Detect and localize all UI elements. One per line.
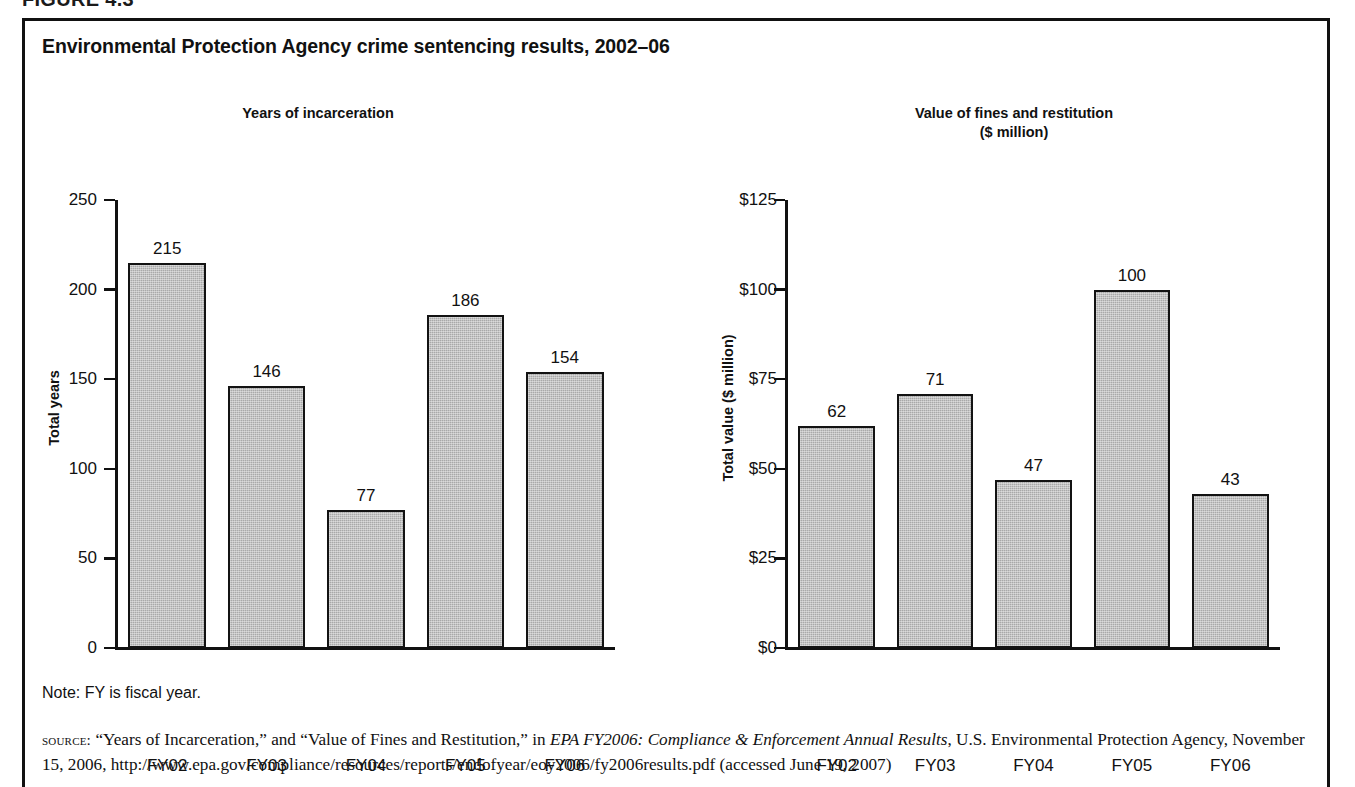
y-axis-tick-label-left: 100 (27, 459, 97, 479)
y-axis-tick-label-left: 200 (27, 280, 97, 300)
y-axis-tick-label-left: 0 (27, 638, 97, 658)
source-prefix: source: (42, 731, 91, 748)
bar-value-label: 186 (416, 291, 515, 311)
figure-root: FIGURE 4.3 Environmental Protection Agen… (0, 0, 1355, 787)
source-text-before: “Years of Incarceration,” and “Value of … (91, 730, 550, 749)
chart-panel-years-of-incarceration: Years of incarceration Total years 05010… (30, 104, 650, 684)
y-axis-tick-left (104, 288, 115, 291)
plot-area-left: Total years 050100150200250 215FY02146FY… (30, 104, 650, 684)
bar-slot: 71FY03 (886, 200, 984, 648)
bar-slot: 43FY06 (1181, 200, 1279, 648)
y-axis-tick-label-right: $100 (691, 280, 777, 300)
bar[interactable] (897, 394, 974, 648)
y-axis-tick-left (104, 557, 115, 560)
bar[interactable] (427, 315, 505, 648)
figure-number-label: FIGURE 4.3 (22, 0, 134, 11)
y-axis-tick-label-left: 50 (27, 548, 97, 568)
bar[interactable] (327, 510, 405, 648)
bar-value-label: 100 (1083, 266, 1181, 286)
y-axis-tick-label-right: $0 (691, 638, 777, 658)
bar-slot: 77FY04 (316, 200, 415, 648)
bar-slot: 100FY05 (1083, 200, 1181, 648)
bar-value-label: 146 (217, 362, 316, 382)
bar[interactable] (798, 426, 875, 648)
bar-value-label: 154 (515, 348, 614, 368)
figure-title: Environmental Protection Agency crime se… (42, 35, 670, 58)
source-publication-title: EPA FY2006: Compliance & Enforcement Ann… (550, 730, 948, 749)
bar-value-label: 71 (886, 370, 984, 390)
bar[interactable] (228, 386, 306, 648)
bar-value-label: 77 (316, 486, 415, 506)
y-axis-title-left: Total years (46, 343, 62, 473)
y-axis-title-right: Total value ($ million) (720, 298, 736, 518)
source-text: source: “Years of Incarceration,” and “V… (42, 728, 1317, 777)
y-axis-tick-label-right: $75 (691, 369, 777, 389)
bar-slot: 62FY02 (788, 200, 886, 648)
y-axis-tick-left (104, 468, 115, 471)
bar-value-label: 47 (984, 456, 1082, 476)
bar[interactable] (128, 263, 206, 648)
bar[interactable] (1094, 290, 1171, 648)
bar[interactable] (526, 372, 604, 648)
bar-value-label: 62 (788, 402, 886, 422)
y-axis-tick-label-right: $25 (691, 548, 777, 568)
plot-area-right: Total value ($ million) $0$25$50$75$100$… (670, 104, 1290, 684)
bar-slot: 146FY03 (217, 200, 316, 648)
y-axis-tick-label-left: 250 (27, 190, 97, 210)
y-axis-tick-label-right: $125 (691, 190, 777, 210)
y-axis-tick-left (104, 378, 115, 381)
bar-value-label: 215 (118, 239, 217, 259)
y-axis-tick-label-right: $50 (691, 459, 777, 479)
y-axis-tick-left (104, 199, 115, 202)
y-axis-tick-left (104, 647, 115, 650)
bar-slot: 215FY02 (118, 200, 217, 648)
bar-slot: 47FY04 (984, 200, 1082, 648)
bar[interactable] (995, 480, 1072, 648)
note-text: Note: FY is fiscal year. (42, 684, 201, 702)
bar-group-left: 215FY02146FY0377FY04186FY05154FY06 (118, 200, 615, 648)
bar[interactable] (1192, 494, 1269, 648)
bar-slot: 186FY05 (416, 200, 515, 648)
chart-panel-value-of-fines: Value of fines and restitution ($ millio… (670, 104, 1290, 684)
bar-slot: 154FY06 (515, 200, 614, 648)
bar-group-right: 62FY0271FY0347FY04100FY0543FY06 (788, 200, 1280, 648)
y-axis-tick-label-left: 150 (27, 369, 97, 389)
bar-value-label: 43 (1181, 470, 1279, 490)
